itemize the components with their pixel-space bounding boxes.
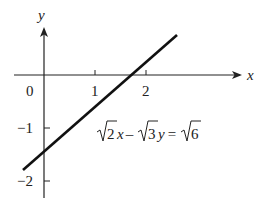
svg-text:3: 3 (148, 126, 156, 142)
y-tick-label-minus-2: −2 (17, 173, 33, 189)
chart-canvas: y x 0 1 2 −1 −2 2 x – 3 y = 6 (0, 0, 262, 202)
origin-label: 0 (26, 83, 34, 99)
equation-annotation: 2 x – 3 y = 6 (97, 121, 201, 142)
svg-text:–: – (122, 126, 137, 142)
y-axis-label: y (36, 7, 45, 23)
y-tick-label-minus-1: −1 (17, 120, 33, 136)
svg-text:2: 2 (107, 126, 115, 142)
x-tick-label-2: 2 (142, 83, 150, 99)
equation-line (23, 35, 177, 170)
svg-text:=: = (164, 126, 180, 142)
x-axis-label: x (246, 67, 254, 83)
svg-text:6: 6 (191, 126, 199, 142)
x-tick-label-1: 1 (91, 83, 99, 99)
